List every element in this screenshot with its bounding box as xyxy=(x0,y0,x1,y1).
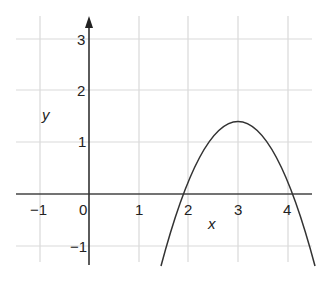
y-tick-m1: −1 xyxy=(70,238,87,255)
x-tick-3: 3 xyxy=(234,201,242,218)
y-axis-arrow-icon xyxy=(85,16,93,28)
y-tick-3: 3 xyxy=(77,31,85,48)
y-axis-label: y xyxy=(41,106,51,123)
x-axis-label: x xyxy=(207,215,216,232)
y-tick-2: 2 xyxy=(77,82,85,99)
graph: −1 0 1 2 3 4 3 2 1 −1 x y xyxy=(0,0,330,286)
y-tick-1: 1 xyxy=(78,133,86,150)
x-tick-2: 2 xyxy=(184,201,192,218)
x-tick-0: 0 xyxy=(79,201,87,218)
x-tick-1: 1 xyxy=(135,201,143,218)
x-tick-4: 4 xyxy=(283,201,291,218)
grid xyxy=(16,16,312,262)
x-tick-m1: −1 xyxy=(30,201,47,218)
